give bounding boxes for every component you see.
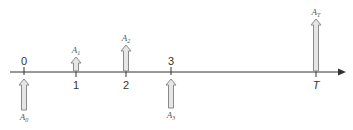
cash-flow-label: A3 <box>166 110 176 121</box>
cash-flow-label: A0 <box>19 112 29 123</box>
cash-flow-arrow-icon <box>311 19 321 71</box>
cash-flow-arrow-icon <box>166 79 176 108</box>
cash-flow-diagram: 0123T A0A1A2A3AT <box>0 0 353 130</box>
tick-label: 0 <box>21 55 27 67</box>
tick-label: 2 <box>123 79 129 91</box>
cash-flow-arrow-icon <box>19 79 29 110</box>
tick-label: T <box>313 79 321 91</box>
cash-flow-arrow-icon <box>71 57 81 71</box>
axis-arrowhead-icon <box>338 69 346 76</box>
cash-flow-arrow-icon <box>121 45 131 71</box>
tick-label: 1 <box>73 79 79 91</box>
cash-flow-label: A1 <box>71 45 81 56</box>
cash-flow-label: A2 <box>121 33 131 44</box>
cash-flow-label: AT <box>311 7 322 18</box>
tick-label: 3 <box>168 55 174 67</box>
